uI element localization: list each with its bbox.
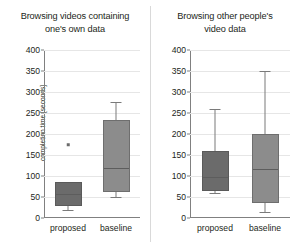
y-tick-mark bbox=[41, 71, 44, 72]
box-iqr bbox=[55, 182, 82, 206]
x-tick-label-proposed: proposed bbox=[197, 223, 233, 233]
y-tick-mark bbox=[41, 50, 44, 51]
panel-right-title: Browsing other people's video data bbox=[150, 10, 300, 35]
y-tick-label: 200 bbox=[172, 129, 186, 139]
y-tick-mark bbox=[41, 134, 44, 135]
box-iqr bbox=[252, 134, 279, 203]
y-tick-label: 0 bbox=[181, 213, 186, 223]
outlier-point bbox=[67, 144, 70, 147]
x-tick-label-baseline: baseline bbox=[249, 223, 281, 233]
y-tick-label: 200 bbox=[26, 129, 40, 139]
y-tick-label: 150 bbox=[172, 150, 186, 160]
y-tick-mark bbox=[187, 134, 190, 135]
box-iqr bbox=[202, 151, 229, 191]
box-plot-figure: Browsing videos containing one's own dat… bbox=[0, 0, 300, 246]
median-line bbox=[56, 194, 81, 195]
y-tick-label: 50 bbox=[30, 192, 40, 202]
y-tick-mark bbox=[41, 197, 44, 198]
y-tick-label: 150 bbox=[26, 150, 40, 160]
y-tick-mark bbox=[187, 197, 190, 198]
y-tick-mark bbox=[187, 92, 190, 93]
x-tick-label-baseline: baseline bbox=[100, 223, 132, 233]
y-tick-label: 0 bbox=[35, 213, 40, 223]
y-tick-label: 100 bbox=[26, 171, 40, 181]
y-tick-mark bbox=[187, 155, 190, 156]
y-tick-mark bbox=[41, 155, 44, 156]
whisker-cap-lower bbox=[111, 197, 122, 198]
y-tick-label: 100 bbox=[172, 171, 186, 181]
y-tick-label: 50 bbox=[176, 192, 186, 202]
plot-area-left: 050100150200250300350400 proposedbaselin… bbox=[44, 50, 140, 218]
median-line bbox=[104, 168, 129, 169]
panel-right-title-line2: video data bbox=[150, 23, 300, 36]
plot-area-right: 050100150200250300350400 proposedbaselin… bbox=[190, 50, 290, 218]
panel-right-title-line1: Browsing other people's bbox=[177, 11, 272, 21]
whisker-cap-upper bbox=[210, 109, 221, 110]
y-tick-label: 400 bbox=[26, 45, 40, 55]
whisker-cap-upper bbox=[260, 71, 271, 72]
panel-left-title-line1: Browsing videos containing bbox=[21, 11, 130, 21]
y-tick-label: 250 bbox=[26, 108, 40, 118]
whisker-cap-lower bbox=[260, 212, 271, 213]
median-line bbox=[253, 169, 278, 170]
y-tick-mark bbox=[187, 71, 190, 72]
y-tick-mark bbox=[41, 113, 44, 114]
y-tick-label: 250 bbox=[172, 108, 186, 118]
whisker-cap-lower bbox=[210, 193, 221, 194]
y-tick-label: 400 bbox=[172, 45, 186, 55]
y-tick-mark bbox=[41, 176, 44, 177]
panel-left-title-line2: one's own data bbox=[0, 23, 150, 36]
y-tick-mark bbox=[187, 218, 190, 219]
median-line bbox=[203, 177, 228, 178]
chart-panel-left: Browsing videos containing one's own dat… bbox=[0, 0, 150, 246]
y-tick-label: 350 bbox=[26, 66, 40, 76]
box-plot-baseline[interactable]: baseline bbox=[252, 50, 279, 218]
chart-panel-right: Browsing other people's video data 05010… bbox=[150, 0, 300, 246]
box-plot-baseline[interactable]: baseline bbox=[103, 50, 130, 218]
y-tick-mark bbox=[187, 50, 190, 51]
panel-left-title: Browsing videos containing one's own dat… bbox=[0, 10, 150, 35]
whisker-cap-lower bbox=[63, 210, 74, 211]
y-tick-mark bbox=[41, 92, 44, 93]
box-iqr bbox=[103, 120, 130, 192]
box-plot-proposed[interactable]: proposed bbox=[55, 50, 82, 218]
box-plot-proposed[interactable]: proposed bbox=[202, 50, 229, 218]
y-tick-mark bbox=[41, 218, 44, 219]
y-tick-label: 300 bbox=[172, 87, 186, 97]
whisker-cap-upper bbox=[111, 102, 122, 103]
y-tick-label: 350 bbox=[172, 66, 186, 76]
x-tick-label-proposed: proposed bbox=[50, 223, 86, 233]
y-tick-label: 300 bbox=[26, 87, 40, 97]
y-tick-mark bbox=[187, 176, 190, 177]
y-tick-mark bbox=[187, 113, 190, 114]
